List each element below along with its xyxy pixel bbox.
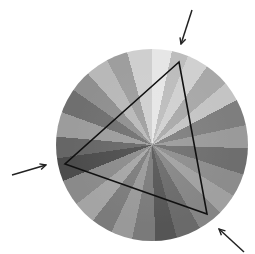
arrows-group bbox=[12, 10, 244, 252]
inscribed-triangle bbox=[65, 62, 207, 214]
arrow-left-icon bbox=[12, 165, 46, 175]
arrow-bottom-right-icon bbox=[219, 229, 244, 252]
diagram-overlay bbox=[0, 0, 255, 254]
arrow-top-icon bbox=[181, 10, 192, 44]
